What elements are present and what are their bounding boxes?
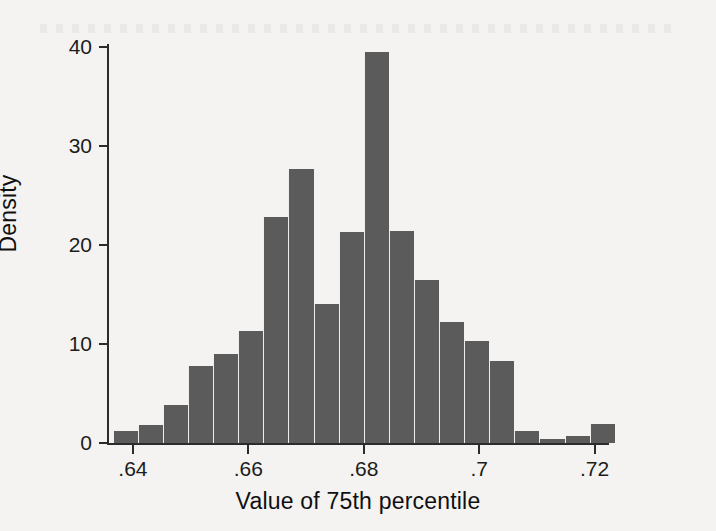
histogram-bar — [565, 436, 590, 443]
y-axis-label: Density — [0, 84, 22, 344]
histogram-bar — [489, 361, 514, 443]
histogram-bar — [339, 232, 364, 443]
histogram-bar — [238, 331, 263, 443]
histogram-bar — [464, 341, 489, 443]
histogram-bar — [389, 231, 414, 443]
histogram-bar — [364, 52, 389, 443]
histogram-figure: 010203040 .64.66.68.7.72 Density Value o… — [0, 0, 716, 531]
histogram-bar — [539, 439, 564, 443]
histogram-bar — [263, 217, 288, 443]
histogram-bar — [439, 322, 464, 443]
x-axis-label: Value of 75th percentile — [107, 488, 609, 515]
histogram-bars — [0, 0, 716, 531]
histogram-bar — [314, 304, 339, 443]
histogram-bar — [514, 431, 539, 443]
histogram-bar — [288, 169, 313, 443]
histogram-bar — [213, 354, 238, 443]
histogram-bar — [138, 425, 163, 443]
histogram-bar — [188, 366, 213, 443]
histogram-bar — [414, 280, 439, 443]
histogram-bar — [163, 405, 188, 443]
histogram-bar — [590, 424, 615, 443]
histogram-bar — [113, 431, 138, 443]
